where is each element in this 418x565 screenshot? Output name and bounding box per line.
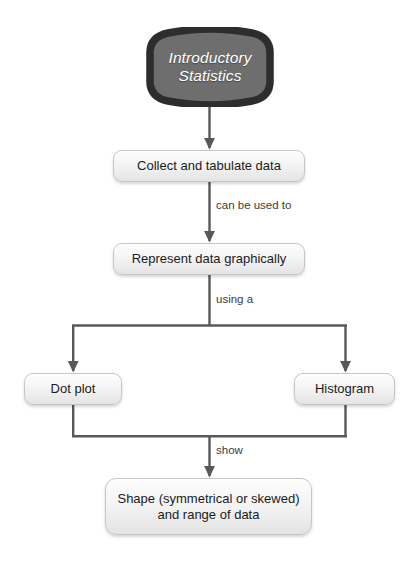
edge-label-using-a: using a: [216, 292, 253, 306]
start-node-introductory-statistics: Introductory Statistics: [146, 27, 274, 107]
node-dotplot-label: Dot plot: [51, 381, 96, 397]
start-node-label: Introductory Statistics: [146, 27, 274, 107]
node-dot-plot: Dot plot: [24, 373, 122, 405]
node-represent-data-graphically: Represent data graphically: [113, 243, 305, 275]
start-node-label-line1: Introductory: [168, 49, 251, 67]
edge-label-show: show: [216, 443, 243, 457]
start-node-label-line2: Statistics: [178, 67, 241, 85]
flowchart-diagram: Introductory Statistics Collect and tabu…: [0, 0, 418, 565]
edge-label-can-be-used-to: can be used to: [216, 198, 291, 212]
node-collect-and-tabulate-data: Collect and tabulate data: [113, 150, 305, 182]
node-collect-label: Collect and tabulate data: [137, 158, 281, 174]
node-shape-label-line1: Shape (symmetrical or skewed): [117, 491, 299, 507]
node-shape-label: Shape (symmetrical or skewed) and range …: [117, 491, 299, 523]
node-shape-label-line2: and range of data: [117, 507, 299, 523]
node-histogram: Histogram: [294, 373, 395, 405]
node-represent-label: Represent data graphically: [132, 251, 287, 267]
node-histogram-label: Histogram: [315, 381, 374, 397]
node-shape-and-range-of-data: Shape (symmetrical or skewed) and range …: [105, 478, 312, 535]
